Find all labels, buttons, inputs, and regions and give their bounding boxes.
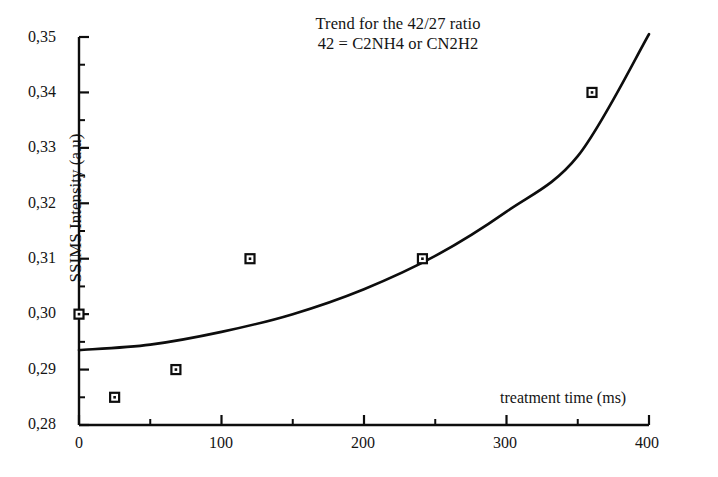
data-point-center: [591, 91, 594, 94]
data-point-center: [113, 396, 116, 399]
data-point-center: [249, 257, 252, 260]
x-axis-major-ticks: [79, 415, 649, 425]
trend-line: [79, 34, 649, 350]
data-point-center: [78, 313, 81, 316]
plot-area: [0, 0, 718, 477]
chart-figure: Trend for the 42/27 ratio 42 = C2NH4 or …: [0, 0, 718, 477]
data-point-center: [421, 257, 424, 260]
data-point-markers: [75, 88, 597, 402]
data-point-center: [175, 368, 178, 371]
